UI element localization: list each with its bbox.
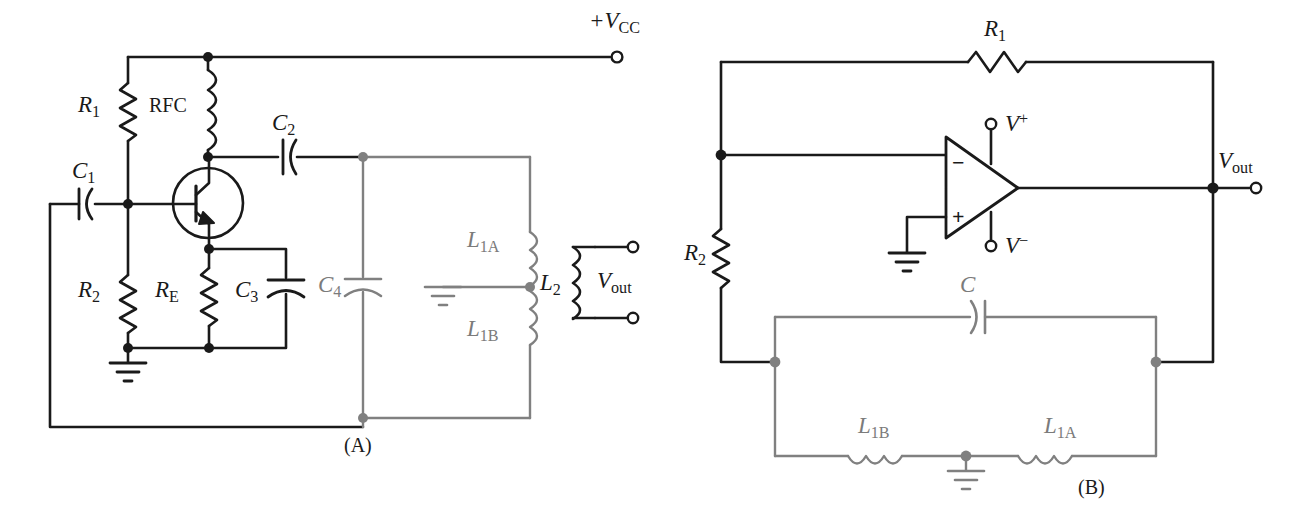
- b-noninverting-input-wire: [907, 217, 946, 252]
- inductor-rfc: [208, 70, 216, 150]
- b-right-vertical-wire: [1156, 62, 1213, 362]
- label-r2: R2: [78, 277, 100, 306]
- opamp-inverting-sign: −: [952, 150, 965, 176]
- resistor-r1: [120, 83, 136, 141]
- b-label-l1a: L1A: [1044, 413, 1076, 442]
- terminal-vcc: [612, 52, 623, 63]
- terminal-vout-top: [628, 242, 638, 252]
- label-c3: C3: [235, 277, 258, 306]
- transistor-collector-lead: [196, 157, 209, 195]
- label-c2: C2: [272, 110, 295, 139]
- resistor-r2: [120, 275, 136, 333]
- figure-canvas: +VCC R1 RFC C2 C1 R2 RE C3 C4 L1A L1B L2…: [0, 0, 1315, 516]
- inductor-l2: [573, 247, 580, 319]
- terminal-vout: [1251, 183, 1261, 193]
- capacitor-c2-plate-curved: [291, 140, 297, 174]
- b-label-r2: R2: [684, 240, 706, 269]
- caption-b: (B): [1078, 476, 1105, 499]
- label-c4: C4: [318, 272, 341, 301]
- b-label-c: C: [960, 272, 975, 298]
- b-resistor-r2: [713, 229, 729, 288]
- node-vcc-rfc: [203, 52, 213, 62]
- label-l1b: L1B: [467, 316, 499, 345]
- resistor-re: [201, 268, 217, 326]
- b-capacitor-c-plate-curved: [971, 301, 977, 333]
- label-c1: C1: [72, 158, 95, 187]
- circuit-schematic-svg: [0, 0, 1315, 516]
- panel-b-group: [713, 52, 1261, 489]
- terminal-vout-bottom: [628, 313, 638, 323]
- b-label-vout: Vout: [1218, 148, 1253, 177]
- caption-a: (A): [344, 434, 372, 457]
- b-inductor-l1b: [848, 456, 902, 464]
- label-l2: L2: [540, 270, 561, 299]
- terminal-vplus: [986, 119, 996, 129]
- inductor-l1b: [530, 291, 537, 345]
- b-r2-lead-bottom: [721, 288, 775, 362]
- label-re: RE: [155, 277, 179, 306]
- b-label-vminus: V−: [1005, 232, 1028, 259]
- b-label-l1b: L1B: [858, 413, 890, 442]
- inductor-l1a: [530, 232, 537, 286]
- label-rfc: RFC: [149, 94, 187, 117]
- b-label-r1: R1: [984, 16, 1006, 45]
- label-l1a: L1A: [467, 227, 499, 256]
- b-label-vplus: V+: [1005, 110, 1028, 137]
- label-r1: R1: [78, 92, 100, 121]
- b-resistor-r1: [968, 52, 1026, 72]
- label-vout-a: Vout: [597, 268, 632, 297]
- label-vcc: +VCC: [589, 8, 640, 37]
- capacitor-c1-plate-curved: [87, 189, 93, 219]
- c3-lead-top: [209, 249, 286, 278]
- opamp-noninverting-sign: +: [952, 204, 965, 230]
- transistor-emitter-arrow: [199, 212, 214, 224]
- b-inductor-l1a: [1018, 456, 1072, 464]
- panel-a-group: [50, 52, 638, 427]
- terminal-vminus: [986, 241, 996, 251]
